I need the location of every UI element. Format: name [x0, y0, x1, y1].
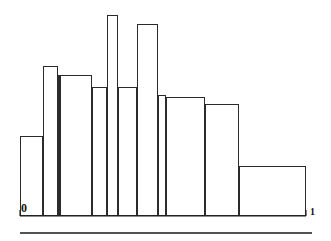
x-axis-tick-label-right: 1 — [310, 206, 315, 217]
histogram-bar — [206, 105, 239, 216]
histogram-bar — [119, 88, 137, 216]
histogram-bar — [44, 67, 58, 216]
histogram-bar — [159, 96, 166, 216]
x-axis-tick-label-left: 0 — [21, 203, 27, 214]
bars-group — [21, 16, 306, 216]
histogram-bar — [167, 98, 205, 216]
histogram-bar — [61, 76, 92, 216]
histogram-bar — [138, 25, 158, 216]
histogram-bar — [108, 16, 118, 216]
histogram-figure: 0 1 — [0, 0, 331, 241]
histogram-bar — [59, 76, 60, 216]
histogram-plot — [0, 0, 331, 241]
histogram-bar — [93, 88, 107, 216]
histogram-bar — [240, 167, 306, 216]
